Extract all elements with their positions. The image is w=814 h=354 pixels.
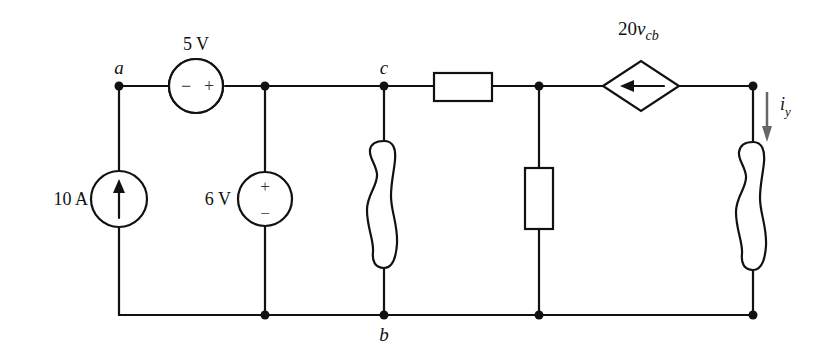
plus-sign: + — [260, 177, 270, 196]
plus-sign: + — [204, 76, 214, 96]
voltage-source-6v-label: 6 V — [205, 189, 231, 209]
node-b — [380, 311, 389, 320]
voltage-source-6v: + − 6 V — [205, 86, 292, 315]
dependent-source-label: 20vcb — [618, 18, 659, 43]
minus-sign: − — [181, 76, 191, 96]
voltage-source-5v-body — [169, 59, 223, 113]
node-top-4 — [535, 82, 544, 91]
dependent-current-source: 20vcb — [603, 18, 679, 111]
node-b-label: b — [379, 324, 389, 345]
node-bottom-4 — [535, 311, 544, 320]
current-source-label: 10 A — [53, 189, 88, 209]
resistor-horizontal — [434, 73, 492, 101]
current-source-10a: 10 A — [53, 86, 147, 315]
node-top-right — [749, 82, 758, 91]
node-c-label: c — [380, 57, 389, 78]
generic-element-right — [736, 86, 766, 315]
current-iy-label: iy — [780, 94, 791, 119]
voltage-source-5v-label: 5 V — [183, 34, 209, 54]
node-a-label: a — [114, 57, 124, 78]
node-top-2 — [261, 82, 270, 91]
generic-element-cb — [367, 86, 397, 315]
current-iy-indicator: iy — [762, 92, 791, 142]
node-a — [115, 82, 124, 91]
resistor-vertical — [525, 86, 553, 315]
node-bottom-right — [749, 311, 758, 320]
minus-sign: − — [260, 204, 270, 223]
node-c — [380, 82, 389, 91]
node-bottom-2 — [261, 311, 270, 320]
circuit-diagram: 10 A − + 5 V + − 6 V 20vcb — [0, 0, 814, 354]
